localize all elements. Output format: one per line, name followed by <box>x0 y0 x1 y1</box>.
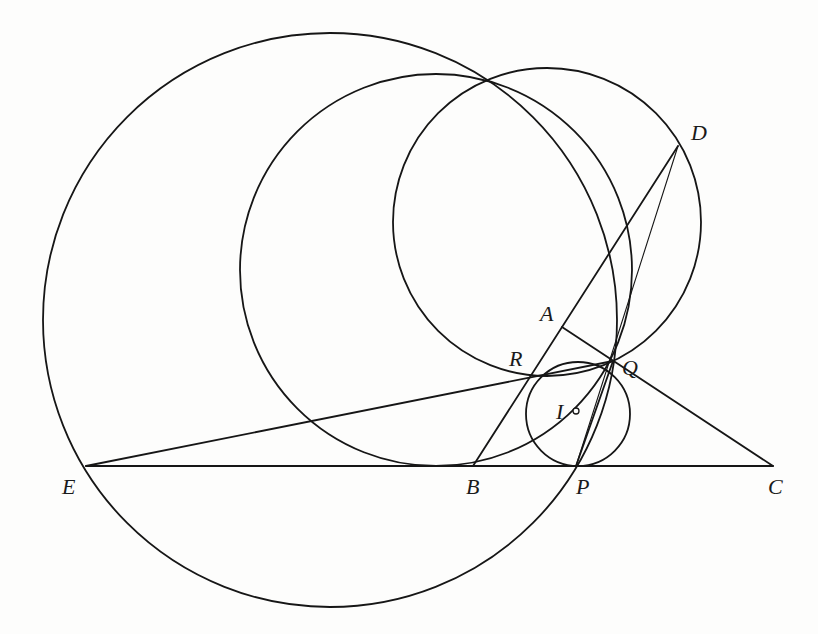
segments-layer <box>86 146 773 466</box>
circles-layer <box>43 33 701 607</box>
label-point-c: C <box>768 474 783 499</box>
line-A-C <box>562 327 773 466</box>
label-point-i: I <box>555 399 565 424</box>
line-D-P <box>576 146 678 466</box>
label-point-q: Q <box>622 355 638 380</box>
line-E-Q <box>86 361 613 466</box>
label-point-e: E <box>61 474 76 499</box>
middle-circle <box>240 74 632 466</box>
label-point-a: A <box>538 301 554 326</box>
label-point-r: R <box>508 346 523 371</box>
big-circle <box>43 33 617 607</box>
label-point-d: D <box>690 120 707 145</box>
label-point-p: P <box>575 474 589 499</box>
inner-circle <box>393 68 701 376</box>
label-point-b: B <box>466 474 479 499</box>
point-marker-i <box>573 408 579 414</box>
diagram-canvas: ABCDEPQRI <box>0 0 818 634</box>
line-B-D <box>473 146 678 466</box>
geometry-diagram: ABCDEPQRI <box>0 0 818 634</box>
point-marks-layer <box>573 408 579 414</box>
